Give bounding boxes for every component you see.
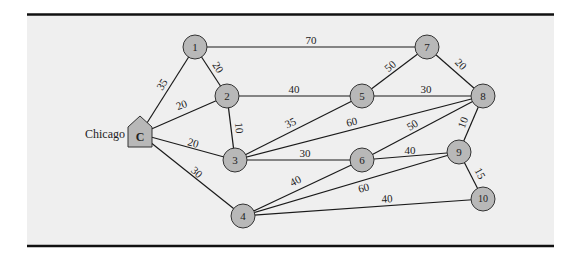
node-10: 10: [471, 187, 495, 211]
node-1: 1: [183, 35, 207, 59]
node-label: 4: [240, 210, 246, 222]
node-7: 7: [415, 35, 439, 59]
edge-weight-4-10: 40: [381, 192, 393, 205]
node-label: 8: [480, 90, 486, 102]
node-2: 2: [215, 84, 239, 108]
node-label: 7: [424, 41, 430, 53]
edge-weight-1-7: 70: [306, 34, 318, 46]
node-4: 4: [231, 204, 255, 228]
edge-weight-3-6: 30: [300, 147, 312, 159]
network-diagram: 3520203020704010356030406040503020504010…: [0, 0, 582, 258]
source-city-label: Chicago: [85, 127, 125, 141]
node-8: 8: [471, 84, 495, 108]
node-label: 3: [232, 154, 238, 166]
node-label: 1: [192, 41, 198, 53]
node-label: 10: [478, 193, 488, 204]
node-label: 5: [359, 90, 365, 102]
node-9: 9: [447, 140, 471, 164]
edge-weight-2-5: 40: [289, 83, 301, 95]
edge-weight-5-8: 30: [421, 83, 433, 95]
node-label: 9: [456, 146, 462, 158]
node-3: 3: [223, 148, 247, 172]
network-canvas: 3520203020704010356030406040503020504010…: [0, 0, 582, 258]
node-label: 2: [224, 90, 230, 102]
node-label: 6: [359, 154, 365, 166]
edge-weight-2-3: 10: [233, 122, 246, 135]
node-5: 5: [350, 84, 374, 108]
node-6: 6: [350, 148, 374, 172]
edge-weight-6-9: 40: [405, 144, 417, 156]
node-label: C: [136, 130, 145, 144]
